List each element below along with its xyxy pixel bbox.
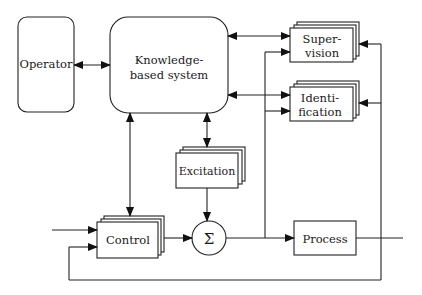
supervision-label-line2: vision	[304, 46, 340, 60]
process-block: Process	[294, 221, 356, 255]
control-block: Control	[97, 216, 164, 258]
process-label: Process	[302, 232, 347, 246]
kbs-label-line2: based system	[130, 68, 209, 82]
excitation-block: Excitation	[176, 147, 245, 188]
supervision-label-line1: Super-	[303, 32, 342, 46]
operator-label: Operator	[20, 57, 73, 71]
identification-label-line2: fication	[298, 105, 342, 119]
sigma-symbol: Σ	[204, 230, 215, 248]
supervision-block: Super- vision	[290, 22, 359, 62]
summation-node: Σ	[192, 221, 226, 255]
operator-block: Operator	[18, 17, 74, 112]
excitation-label: Excitation	[179, 165, 236, 178]
identification-label-line1: Identi-	[301, 91, 339, 105]
fault-diagnosis-block-diagram: Operator Knowledge- based system Super- …	[0, 0, 422, 295]
kbs-label-line1: Knowledge-	[135, 53, 204, 67]
knowledge-based-system-block: Knowledge- based system	[110, 17, 228, 113]
control-label: Control	[106, 233, 150, 247]
identification-block: Identi- fication	[290, 81, 359, 121]
